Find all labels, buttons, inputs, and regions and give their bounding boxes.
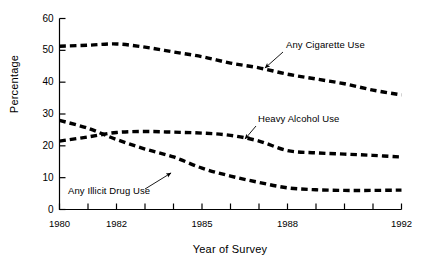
series-label-1: Heavy Alcohol Use (258, 113, 339, 124)
x-tick-label: 1985 (182, 218, 222, 229)
chart-plot-area (0, 0, 433, 271)
y-tick-label: 20 (30, 140, 54, 151)
y-tick-label: 30 (30, 108, 54, 119)
series-label-0: Any Cigarette Use (286, 39, 365, 50)
y-tick-label: 50 (30, 44, 54, 55)
series-label-2: Any Illicit Drug Use (68, 185, 150, 196)
y-tick-label: 10 (30, 172, 54, 183)
annotation-arrow-1 (245, 126, 256, 139)
y-tick-label: 40 (30, 76, 54, 87)
series-line-1 (60, 132, 402, 157)
annotation-arrow-0 (265, 52, 283, 68)
x-tick-label: 1980 (40, 218, 80, 229)
series-line-0 (60, 44, 402, 95)
y-tick-label: 0 (30, 204, 54, 215)
y-tick-label: 60 (30, 13, 54, 24)
chart-container: Percentage Year of Survey 0102030405060 … (0, 0, 433, 271)
series-line-2 (60, 120, 402, 190)
x-axis-title: Year of Survey (160, 243, 300, 255)
x-tick-label: 1992 (382, 218, 422, 229)
y-axis-title: Percentage (8, 34, 20, 134)
x-tick-label: 1982 (97, 218, 137, 229)
x-tick-label: 1988 (268, 218, 308, 229)
